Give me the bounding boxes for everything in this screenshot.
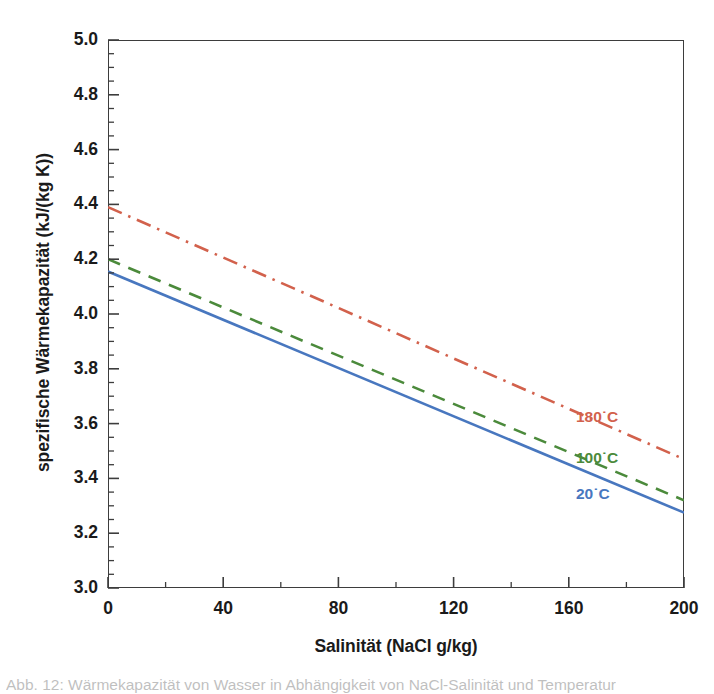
x-tick-label: 120 xyxy=(419,598,489,619)
series-label-180C: 180˙C xyxy=(576,408,618,426)
y-tick-label: 4.6 xyxy=(36,139,98,160)
y-tick-label: 4.4 xyxy=(36,193,98,214)
y-tick-label: 3.2 xyxy=(36,522,98,543)
y-tick-label: 4.8 xyxy=(36,84,98,105)
y-tick-label: 3.4 xyxy=(36,467,98,488)
x-tick-label: 0 xyxy=(73,598,143,619)
y-tick-label: 5.0 xyxy=(36,29,98,50)
series-label-20C: 20˙C xyxy=(576,485,610,503)
x-tick-label: 80 xyxy=(303,598,373,619)
y-tick-label: 3.8 xyxy=(36,358,98,379)
y-tick-label: 3.6 xyxy=(36,413,98,434)
series-line-20C xyxy=(108,272,684,513)
y-tick-label: 4.0 xyxy=(36,303,98,324)
x-tick-label: 160 xyxy=(534,598,604,619)
x-axis-title: Salinität (NaCl g/kg) xyxy=(108,636,684,657)
y-tick-label: 3.0 xyxy=(36,577,98,598)
series-label-100C: 100˙C xyxy=(576,449,618,467)
y-tick-label: 4.2 xyxy=(36,248,98,269)
x-tick-label: 200 xyxy=(649,598,714,619)
figure-caption: Abb. 12: Wärmekapazität von Wasser in Ab… xyxy=(6,676,712,694)
x-tick-label: 40 xyxy=(188,598,258,619)
chart-lines xyxy=(108,40,684,588)
